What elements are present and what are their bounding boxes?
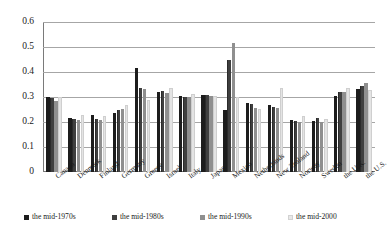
bar [236, 97, 239, 172]
bar [103, 116, 106, 173]
bar-group [198, 22, 220, 172]
bar [368, 90, 371, 173]
bar [81, 115, 84, 172]
bar [58, 97, 61, 172]
legend-item[interactable]: the mid-1980s [112, 213, 200, 221]
y-axis-tick-label: 0.4 [22, 67, 34, 77]
bar [258, 109, 261, 172]
legend-item[interactable]: the mid-2000 [288, 213, 376, 221]
bar-group [242, 22, 264, 172]
bar [183, 97, 186, 172]
chart-legend: the mid-1970sthe mid-1980sthe mid-1990st… [24, 210, 376, 224]
bar [346, 88, 349, 172]
bar-group [43, 22, 65, 172]
bar [50, 98, 53, 172]
bar [213, 96, 216, 172]
bar [125, 105, 128, 173]
bar [254, 108, 257, 173]
bar [364, 83, 367, 172]
bar-group [154, 22, 176, 172]
bar [135, 68, 138, 172]
y-axis-tick-labels: 00.10.20.30.40.50.6 [0, 22, 38, 172]
bar [161, 91, 164, 172]
bar [179, 96, 182, 172]
y-axis-tick-label: 0.5 [22, 42, 34, 52]
bar [205, 95, 208, 173]
bar-group [331, 22, 353, 172]
bar-group [353, 22, 375, 172]
bar [77, 120, 80, 172]
legend-item[interactable]: the mid-1990s [200, 213, 288, 221]
bar [165, 93, 168, 173]
bar [302, 116, 305, 173]
y-axis-tick-label: 0.3 [22, 92, 34, 102]
legend-label: the mid-1970s [32, 213, 76, 221]
bar [324, 119, 327, 172]
y-axis-tick-label: 0.1 [22, 142, 34, 152]
bar [169, 88, 172, 172]
bar [232, 43, 235, 172]
y-axis-tick-label: 0.6 [22, 17, 34, 27]
bar-group [309, 22, 331, 172]
legend-swatch-icon [112, 215, 117, 220]
bar [187, 97, 190, 173]
bar-groups [43, 22, 375, 172]
bar [209, 96, 212, 172]
bar [201, 95, 204, 173]
y-axis-tick-label: 0.2 [22, 117, 34, 127]
bar [227, 60, 230, 172]
legend-swatch-icon [288, 215, 293, 220]
bar [191, 94, 194, 172]
bar [147, 100, 150, 172]
legend-swatch-icon [24, 215, 29, 220]
bar-group [65, 22, 87, 172]
bar [54, 101, 57, 172]
bar-group [87, 22, 109, 172]
bar [223, 110, 226, 173]
bar-group [132, 22, 154, 172]
bar [46, 97, 49, 172]
bar-group [220, 22, 242, 172]
legend-swatch-icon [200, 215, 205, 220]
bar-group [176, 22, 198, 172]
bar-group [109, 22, 131, 172]
plot-area [43, 22, 375, 172]
x-axis-category-labels: CanadaDenmarkFinlandGermanyGreeceIsraelI… [43, 172, 375, 212]
bar [121, 109, 124, 172]
y-axis-tick-label: 0 [29, 167, 34, 177]
legend-label: the mid-1980s [120, 213, 164, 221]
legend-item[interactable]: the mid-1970s [24, 213, 112, 221]
legend-label: the mid-2000 [296, 213, 337, 221]
legend-label: the mid-1990s [208, 213, 252, 221]
bar [342, 92, 345, 172]
bar-group [264, 22, 286, 172]
